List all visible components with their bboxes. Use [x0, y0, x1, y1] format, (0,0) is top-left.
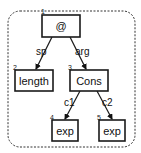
node-label: exp: [56, 125, 74, 137]
node-2: length 2: [13, 64, 53, 91]
edge-3-4: c1: [64, 91, 80, 119]
node-label: Cons: [76, 75, 102, 87]
edge-label: arg: [75, 46, 89, 57]
edge-label: c1: [64, 97, 75, 108]
node-label: exp: [103, 125, 121, 137]
edge-label: sp: [36, 46, 47, 57]
edge-1-3: arg: [70, 37, 89, 69]
node-number: 4: [50, 114, 54, 121]
node-number: 2: [13, 64, 17, 71]
node-3: Cons 3: [68, 64, 108, 91]
node-4: exp 4: [50, 114, 78, 141]
tree-diagram: sp arg c1 c2 @ 1 length 2 Cons 3 exp 4 e…: [0, 0, 141, 153]
node-label: @: [55, 20, 66, 32]
node-number: 5: [97, 114, 101, 121]
edge-label: c2: [102, 97, 113, 108]
node-number: 3: [68, 64, 72, 71]
edge-1-2: sp: [36, 37, 52, 69]
node-1: @ 1: [41, 8, 80, 37]
node-label: length: [19, 75, 49, 87]
node-number: 1: [41, 8, 45, 15]
